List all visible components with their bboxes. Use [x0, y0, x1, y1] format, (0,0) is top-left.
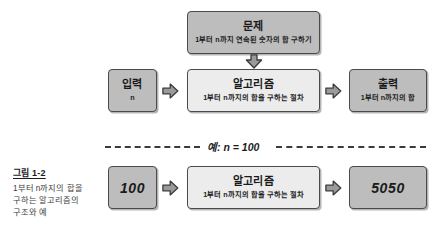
input-subtitle: n — [130, 94, 134, 102]
example-output-box: 5050 — [349, 166, 427, 209]
arrow-right-icon-example-input — [162, 180, 179, 196]
divider-left — [105, 146, 200, 148]
example-output-value: 5050 — [371, 180, 405, 196]
caption-label: 그림 1-2 — [13, 166, 99, 179]
example-algorithm-box: 알고리즘 1부터 n까지의 합을 구하는 절차 — [187, 166, 320, 209]
example-label: 예: n = 100 — [207, 139, 259, 154]
input-title: 입력 — [122, 78, 142, 90]
algorithm-subtitle: 1부터 n까지의 합을 구하는 절차 — [203, 94, 303, 102]
input-box: 입력 n — [108, 69, 157, 112]
figure-container: 문제 1부터 n까지 연속된 숫자의 합 구하기 입력 n 알고리즘 1부터 n… — [0, 0, 437, 228]
example-input-value: 100 — [120, 180, 145, 196]
output-subtitle: 1부터 n까지의 합 — [361, 94, 415, 102]
example-algorithm-subtitle: 1부터 n까지의 합을 구하는 절차 — [203, 191, 303, 199]
arrow-right-icon-output — [325, 83, 342, 99]
problem-title: 문제 — [243, 20, 263, 32]
divider-right — [276, 146, 426, 148]
output-box: 출력 1부터 n까지의 합 — [349, 69, 427, 112]
arrow-right-icon-example-output — [325, 180, 342, 196]
example-input-box: 100 — [108, 166, 157, 209]
caption-text: 1부터 n까지의 합을 구하는 알고리즘의 구조와 예 — [13, 183, 99, 219]
arrow-right-icon-input — [162, 83, 179, 99]
algorithm-title: 알고리즘 — [233, 78, 274, 90]
arrow-down-icon — [245, 54, 263, 69]
output-title: 출력 — [378, 78, 398, 90]
figure-caption: 그림 1-2 1부터 n까지의 합을 구하는 알고리즘의 구조와 예 — [13, 166, 99, 219]
algorithm-box: 알고리즘 1부터 n까지의 합을 구하는 절차 — [187, 69, 320, 112]
problem-subtitle: 1부터 n까지 연속된 숫자의 합 구하기 — [195, 36, 311, 44]
example-algorithm-title: 알고리즘 — [233, 175, 274, 187]
problem-box: 문제 1부터 n까지 연속된 숫자의 합 구하기 — [187, 11, 320, 54]
